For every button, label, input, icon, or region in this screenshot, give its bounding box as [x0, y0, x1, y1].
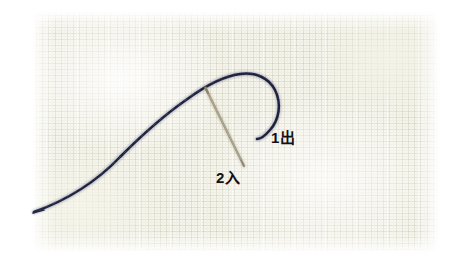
thread-highlight: [38, 73, 275, 210]
screenshot-root: 1出 2入: [0, 0, 470, 272]
sewing-needle: [206, 88, 245, 166]
annotation-label-1-out: 1出: [271, 130, 295, 145]
stitch-illustration: [0, 0, 470, 272]
needle-shaft-sheen: [207, 91, 242, 162]
thread-halo: [34, 74, 279, 212]
embroidery-thread: [33, 73, 279, 213]
thread-strand: [34, 74, 279, 212]
annotation-label-2-in: 2入: [216, 170, 240, 185]
